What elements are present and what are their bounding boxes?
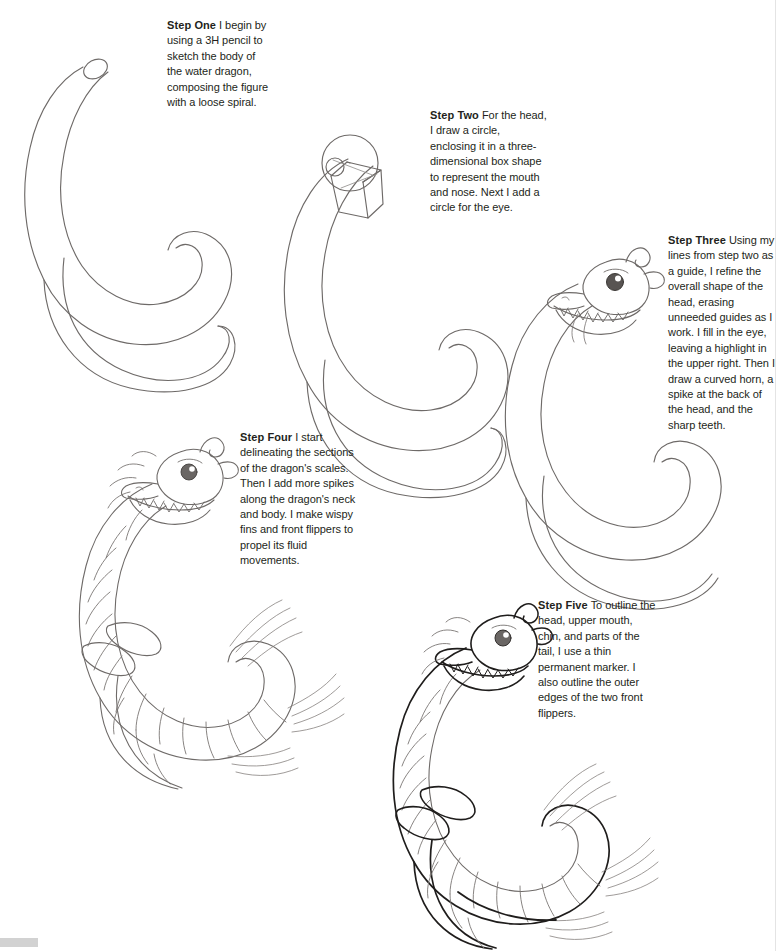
step-five-head [436,615,538,690]
step-five-flippers [396,787,475,840]
step-two-label: Step Two [430,109,479,121]
step-one-label: Step One [167,19,216,31]
step-three-neck-frill [572,314,588,344]
step-five-body: To outline the head, upper mouth, chin, … [538,599,655,719]
step-two-head-guides [322,135,383,218]
step-two-caption: Step Two For the head, I draw a circle, … [430,108,548,216]
step-five-teeth [450,664,518,678]
step-five-neck-spikes [422,618,470,675]
step-five-belly-shadow [458,892,556,920]
tutorial-page: Step One I begin by using a 3H pencil to… [0,0,780,951]
step-one-caption: Step One I begin by using a 3H pencil to… [167,18,272,110]
step-four-head [122,438,239,524]
step-three-teeth [560,308,628,322]
step-four-flippers [82,623,161,676]
step-five-label: Step Five [538,599,588,611]
step-three-label: Step Three [668,234,726,246]
scan-artifact-bottom-left [0,938,38,947]
step-one-body: I begin by using a 3H pencil to sketch t… [167,19,268,108]
step-three-head-outline [548,259,650,334]
step-three-body: Using my lines from step two as a guide,… [668,234,775,431]
step-five-caption: Step Five To outline the head, upper mou… [538,598,656,721]
step-four-label: Step Four [240,431,292,443]
step-four-wispy-fins [228,600,344,775]
step-five-wispy-fins [542,764,658,939]
step-three-eye [604,269,628,290]
scan-artifact-right-edge [775,0,776,951]
step-five-eye [492,625,516,646]
step-two-body: For the head, I draw a circle, enclosing… [430,109,547,213]
step-four-body: I start delineating the sections of the … [240,431,355,566]
step-four-neck-spikes [108,452,156,509]
step-three-caption: Step Three Using my lines from step two … [668,233,776,433]
step-three-horn-and-spike [562,248,664,300]
step-four-caption: Step Four I start delineating the sectio… [240,430,358,569]
